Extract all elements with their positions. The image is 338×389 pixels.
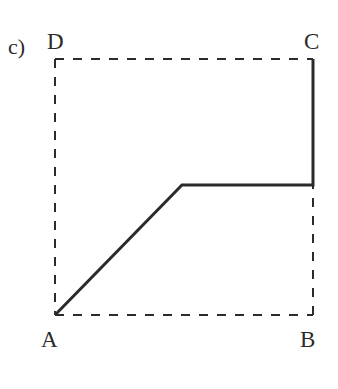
solid-polyline (55, 59, 313, 315)
vertex-label-d: D (47, 30, 64, 53)
figure-container: c) D C A B (0, 0, 338, 389)
vertex-label-a: A (41, 328, 58, 351)
vertex-label-b: B (300, 328, 316, 351)
vertex-label-c: C (304, 30, 320, 53)
solid-path-group (55, 59, 313, 315)
panel-label-c: c) (8, 36, 25, 58)
